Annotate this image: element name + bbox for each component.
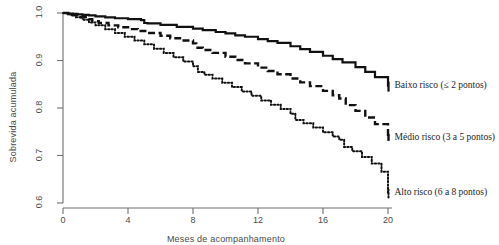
survival-chart-figure: Sobrevida acumulada Meses de acompanhame… — [0, 0, 499, 245]
y-tick-label: 0.9 — [34, 47, 44, 73]
x-tick-label: 20 — [376, 215, 400, 225]
x-axis-title: Meses de acompanhamento — [167, 234, 285, 244]
x-tick-label: 16 — [311, 215, 335, 225]
x-tick-label: 4 — [116, 215, 140, 225]
series-label-1: Baixo risco (≤ 2 pontos) — [395, 80, 487, 90]
y-tick-label: 0.7 — [34, 142, 44, 168]
x-tick-label: 8 — [181, 215, 205, 225]
series-paths — [63, 13, 388, 194]
axis-lines — [63, 13, 392, 208]
x-axis-ticks — [63, 208, 388, 214]
plot-canvas — [0, 0, 499, 245]
x-tick-label: 0 — [51, 215, 75, 225]
y-axis-ticks — [57, 13, 63, 203]
x-axis-title-wrapper: Meses de acompanhamento — [106, 228, 346, 245]
x-tick-label: 12 — [246, 215, 270, 225]
series-label-2: Médio risco (3 a 5 pontos) — [395, 132, 496, 142]
y-axis-title: Sobrevida acumulada — [8, 72, 18, 163]
y-tick-label: 0.6 — [34, 189, 44, 215]
y-tick-label: 1.0 — [34, 0, 44, 25]
series-line-3 — [63, 13, 388, 194]
series-label-3: Alto risco (6 a 8 pontos) — [395, 187, 488, 197]
y-axis-title-wrapper: Sobrevida acumulada — [2, 57, 20, 177]
series-line-1 — [63, 13, 388, 87]
y-tick-label: 0.8 — [34, 94, 44, 120]
